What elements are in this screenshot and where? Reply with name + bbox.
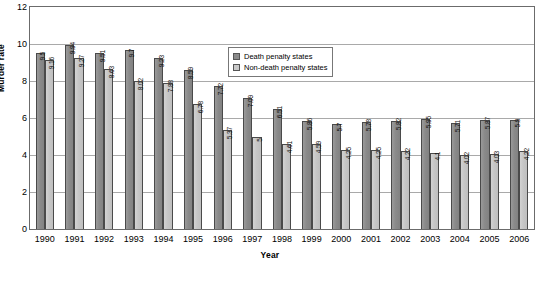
bar-value-label: 5.87: [485, 117, 492, 129]
bar-dp-2002[interactable]: 5.82: [391, 121, 400, 229]
legend-item-non-death-penalty-states: Non-death penalty states: [233, 62, 327, 73]
bar-ndp-2000[interactable]: 4.25: [341, 150, 350, 229]
bar-dp-1990[interactable]: 9.5: [36, 53, 45, 229]
bar-ndp-1993[interactable]: 8.02: [134, 81, 143, 229]
legend-swatch-icon-non-death-penalty: [233, 64, 240, 71]
bar-ndp-1995[interactable]: 6.78: [193, 104, 202, 229]
bar-group: 6.514.61: [267, 7, 297, 229]
bar-group: 5.874.03: [475, 7, 505, 229]
bar-ndp-2004[interactable]: 4.02: [460, 155, 469, 229]
bar-value-label: 4.1: [435, 152, 442, 161]
bar-group: 8.596.78: [178, 7, 208, 229]
bar-value-label: 4.25: [346, 147, 353, 159]
bar-value-label: 4.22: [524, 148, 531, 160]
x-tick-label-1994: 1994: [149, 234, 179, 244]
bar-dp-1997[interactable]: 7.09: [243, 98, 252, 229]
y-tick-label: 4: [1, 150, 27, 160]
bar-value-label: 4.03: [494, 151, 501, 163]
x-tick-label-2001: 2001: [356, 234, 386, 244]
bar-value-label: 6.78: [198, 100, 205, 112]
x-tick-label-2004: 2004: [445, 234, 475, 244]
x-axis-title: Year: [0, 250, 540, 260]
bar-value-label: 5: [257, 138, 264, 142]
bar-dp-1993[interactable]: 9.7: [125, 50, 134, 229]
bar-group: 5.954.1: [415, 7, 445, 229]
bar-dp-2004[interactable]: 5.71: [451, 123, 460, 229]
x-tick-label-2006: 2006: [504, 234, 534, 244]
bar-ndp-1998[interactable]: 4.61: [282, 144, 291, 229]
bar-dp-1991[interactable]: 9.94: [65, 45, 74, 229]
bar-group: 5.94.22: [504, 7, 534, 229]
x-tick-label-1990: 1990: [30, 234, 60, 244]
bar-group: 5.784.25: [356, 7, 386, 229]
legend-label: Death penalty states: [244, 52, 312, 61]
bar-ndp-2001[interactable]: 4.25: [371, 150, 380, 229]
bar-dp-1996[interactable]: 7.72: [214, 86, 223, 229]
x-tick-label-2000: 2000: [326, 234, 356, 244]
bar-value-label: 4.61: [287, 141, 294, 153]
bar-value-label: 8.59: [188, 67, 195, 79]
bar-ndp-1992[interactable]: 8.63: [104, 69, 113, 229]
bar-value-label: 6.51: [277, 105, 284, 117]
bar-ndp-1999[interactable]: 4.59: [312, 144, 321, 229]
y-axis-title: Murder rate: [0, 0, 6, 92]
bar-value-label: 4.02: [464, 152, 471, 164]
bar-dp-2005[interactable]: 5.87: [480, 120, 489, 229]
bar-value-label: 7.72: [218, 83, 225, 95]
bar-dp-2003[interactable]: 5.95: [421, 119, 430, 229]
bar-dp-1994[interactable]: 9.23: [154, 58, 163, 229]
chart-legend: Death penalty states Non-death penalty s…: [228, 47, 333, 77]
bar-value-label: 8.63: [109, 66, 116, 78]
bar-group: 9.78.02: [119, 7, 149, 229]
x-tick-label-1999: 1999: [297, 234, 327, 244]
bar-value-label: 9.51: [100, 50, 107, 62]
bar-group: 5.824.22: [386, 7, 416, 229]
bar-ndp-2006[interactable]: 4.22: [519, 151, 528, 229]
x-tick-label-1997: 1997: [238, 234, 268, 244]
bar-value-label: 4.22: [405, 148, 412, 160]
bar-dp-1992[interactable]: 9.51: [95, 53, 104, 229]
bar-value-label: 9.16: [49, 56, 56, 68]
bar-value-label: 5.9: [515, 118, 522, 127]
x-tick-label-1995: 1995: [178, 234, 208, 244]
page-bottom-margin: [0, 272, 540, 286]
bar-ndp-1997[interactable]: 5: [252, 137, 261, 230]
bar-value-label: 5.86: [307, 117, 314, 129]
bar-group: 5.714.02: [445, 7, 475, 229]
x-tick-label-1992: 1992: [89, 234, 119, 244]
bar-dp-1995[interactable]: 8.59: [184, 70, 193, 229]
bar-ndp-1991[interactable]: 9.27: [74, 58, 83, 229]
bar-value-label: 5.82: [396, 118, 403, 130]
legend-swatch-icon-death-penalty: [233, 53, 240, 60]
bar-value-label: 9.94: [70, 42, 77, 54]
bar-dp-2000[interactable]: 5.7: [332, 124, 341, 229]
bar-value-label: 5.37: [227, 127, 234, 139]
bar-ndp-2002[interactable]: 4.22: [401, 151, 410, 229]
x-tick-label-1998: 1998: [267, 234, 297, 244]
bar-value-label: 9.27: [79, 54, 86, 66]
bar-group: 9.518.63: [89, 7, 119, 229]
x-tick-label-2005: 2005: [475, 234, 505, 244]
bar-ndp-1990[interactable]: 9.16: [45, 60, 54, 229]
bar-value-label: 9.7: [129, 48, 136, 57]
bar-ndp-1996[interactable]: 5.37: [223, 130, 232, 229]
bar-value-label: 7.09: [248, 95, 255, 107]
x-tick-label-1996: 1996: [208, 234, 238, 244]
bar-group: 5.864.59: [297, 7, 327, 229]
bar-dp-2001[interactable]: 5.78: [362, 122, 371, 229]
plot-area: 9.59.169.949.279.518.639.78.029.237.888.…: [30, 7, 534, 229]
bar-dp-1998[interactable]: 6.51: [273, 109, 282, 229]
bar-dp-1999[interactable]: 5.86: [302, 121, 311, 229]
bar-ndp-2005[interactable]: 4.03: [490, 154, 499, 229]
x-tick-label-2003: 2003: [415, 234, 445, 244]
bar-dp-2006[interactable]: 5.9: [510, 120, 519, 229]
bar-value-label: 5.7: [337, 122, 344, 131]
bar-group: 7.725.37: [208, 7, 238, 229]
bar-group: 9.237.88: [149, 7, 179, 229]
bar-value-label: 5.78: [366, 119, 373, 131]
bar-ndp-2003[interactable]: 4.1: [430, 153, 439, 229]
bar-value-label: 8.02: [138, 78, 145, 90]
y-tick-label: 2: [1, 187, 27, 197]
bar-ndp-1994[interactable]: 7.88: [163, 83, 172, 229]
y-tick-label: 6: [1, 113, 27, 123]
